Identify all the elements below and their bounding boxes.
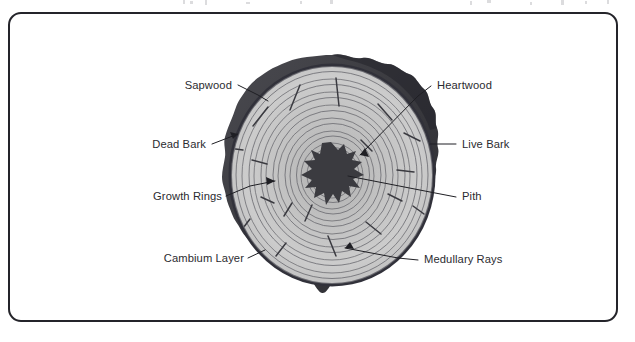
label-sapwood: Sapwood (185, 79, 232, 91)
label-growth-rings: Growth Rings (153, 190, 222, 202)
label-dead-bark: Dead Bark (152, 138, 206, 150)
tree-cross-section-illustration: Sapwood Dead Bark Growth Rings Cambium L… (0, 0, 635, 342)
label-pith: Pith (462, 190, 482, 202)
label-live-bark: Live Bark (462, 138, 510, 150)
label-heartwood: Heartwood (437, 79, 492, 91)
label-cambium-layer: Cambium Layer (164, 252, 244, 264)
label-medullary-rays: Medullary Rays (424, 253, 503, 265)
diagram-stage: Sapwood Dead Bark Growth Rings Cambium L… (0, 0, 635, 342)
